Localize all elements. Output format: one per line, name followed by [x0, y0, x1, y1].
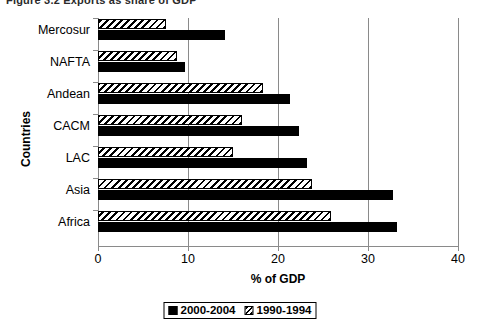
bar-group — [98, 210, 458, 242]
legend-label: 2000-2004 — [181, 304, 236, 316]
bar-group — [98, 114, 458, 146]
y-axis-tick — [93, 18, 98, 19]
x-axis-tick-label: 20 — [271, 252, 285, 266]
bar-2000-2004 — [98, 126, 299, 136]
x-axis-tick-label: 30 — [361, 252, 375, 266]
y-axis-title: Countries — [19, 99, 33, 179]
bar-2000-2004 — [98, 158, 307, 168]
x-axis-title: % of GDP — [251, 272, 306, 286]
bar-2000-2004 — [98, 190, 393, 200]
bar-1990-1994 — [98, 179, 312, 189]
x-axis-tick — [98, 246, 99, 251]
x-axis-tick — [458, 246, 459, 251]
y-axis-tick-label: CACM — [53, 119, 90, 133]
bar-1990-1994 — [98, 51, 177, 61]
bar-group — [98, 146, 458, 178]
bar-chart: Countries % of GDP 010203040 MercosurNAF… — [0, 0, 480, 290]
y-axis-tick — [93, 178, 98, 179]
bar-1990-1994 — [98, 19, 166, 29]
x-axis-tick-label: 10 — [181, 252, 195, 266]
bar-group — [98, 50, 458, 82]
bar-1990-1994 — [98, 147, 233, 157]
y-axis-tick-label: NAFTA — [50, 55, 90, 69]
x-axis-tick — [188, 246, 189, 251]
legend-item: 1990-1994 — [245, 304, 312, 316]
y-axis-tick — [93, 114, 98, 115]
bar-2000-2004 — [98, 62, 185, 72]
bar-1990-1994 — [98, 211, 331, 221]
bar-group — [98, 18, 458, 50]
y-axis-tick-label: Mercosur — [38, 23, 90, 37]
bar-2000-2004 — [98, 222, 397, 232]
bar-group — [98, 178, 458, 210]
y-axis-tick — [93, 50, 98, 51]
y-axis-tick — [93, 82, 98, 83]
chart-legend: 2000-20041990-1994 — [164, 302, 317, 319]
y-axis-tick-label: Asia — [66, 183, 90, 197]
legend-item: 2000-2004 — [169, 304, 236, 316]
y-axis-tick — [93, 210, 98, 211]
bar-2000-2004 — [98, 94, 290, 104]
bar-2000-2004 — [98, 30, 225, 40]
gridline — [458, 18, 459, 246]
x-axis-tick-label: 0 — [95, 252, 102, 266]
legend-swatch-hatch-icon — [245, 306, 254, 315]
legend-label: 1990-1994 — [257, 304, 312, 316]
y-axis-tick-label: LAC — [66, 151, 90, 165]
bar-1990-1994 — [98, 83, 263, 93]
y-axis-tick-label: Andean — [47, 87, 90, 101]
y-axis-tick — [93, 146, 98, 147]
bar-1990-1994 — [98, 115, 242, 125]
y-axis-tick-label: Africa — [58, 215, 90, 229]
x-axis-tick — [278, 246, 279, 251]
x-axis-tick-label: 40 — [451, 252, 465, 266]
plot-area — [98, 18, 458, 246]
bar-group — [98, 82, 458, 114]
x-axis-tick — [368, 246, 369, 251]
legend-swatch-solid-icon — [169, 306, 178, 315]
